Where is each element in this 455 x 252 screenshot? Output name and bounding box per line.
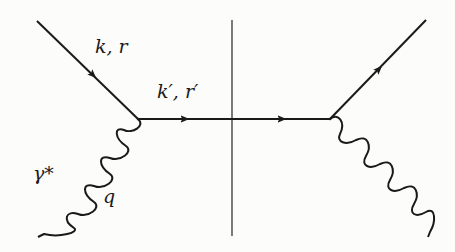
right-vertex — [329, 118, 331, 120]
diagram-canvas — [0, 0, 455, 252]
incoming-fermion-label: k, r — [95, 37, 128, 56]
photon-name-label: γ* — [33, 164, 54, 183]
left-vertex — [137, 118, 139, 120]
photon-momentum-label: q — [103, 187, 115, 206]
right-photon-wavy-line — [330, 117, 434, 237]
propagator-label: k′, r′ — [157, 82, 198, 101]
feynman-diagram: k, r k′, r′ γ* q — [0, 0, 455, 252]
outgoing-fermion-line — [330, 20, 426, 119]
